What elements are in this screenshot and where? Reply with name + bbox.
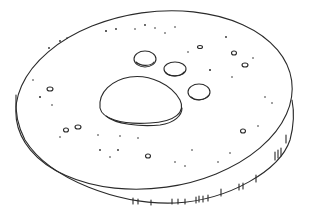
disc-side <box>16 95 294 203</box>
paw-pad <box>100 77 182 124</box>
toe-1 <box>134 51 156 67</box>
speckles <box>32 24 273 167</box>
paw-print-disc-drawing <box>0 0 309 223</box>
